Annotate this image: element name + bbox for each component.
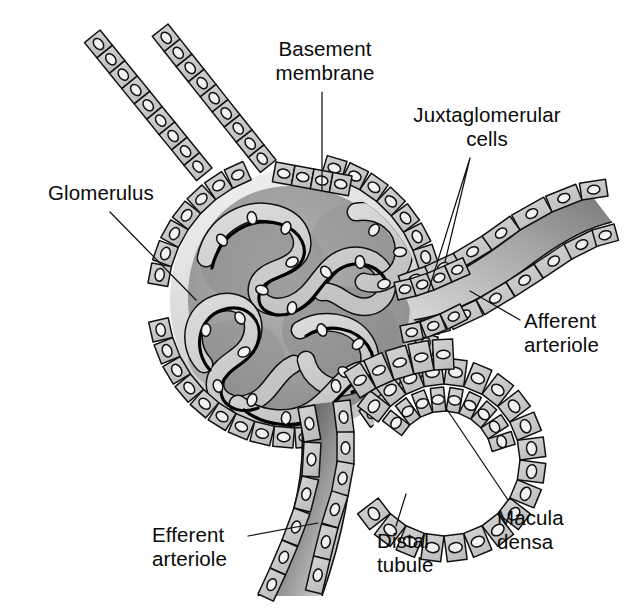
- label-line: Basement: [278, 37, 371, 60]
- label-line: arteriole: [152, 547, 227, 570]
- cell-nucleus: [436, 350, 450, 359]
- label-line: Juxtaglomerular: [413, 103, 560, 126]
- label-line: Efferent: [152, 523, 224, 546]
- label-line: densa: [497, 530, 554, 553]
- renal-corpuscle-figure: BasementmembraneJuxtaglomerularcellsGlom…: [0, 0, 633, 611]
- label-line: Afferent: [524, 309, 596, 332]
- label-line: Macula: [497, 506, 564, 529]
- cell-nucleus: [341, 442, 350, 454]
- label-line: Glomerulus: [48, 181, 154, 204]
- label-line: tubule: [377, 553, 433, 576]
- label-efferent-arteriole: Efferentarteriole: [152, 523, 227, 570]
- label-afferent-arteriole: Afferentarteriole: [524, 309, 599, 356]
- diagram-canvas: BasementmembraneJuxtaglomerularcellsGlom…: [0, 0, 633, 611]
- label-line: arteriole: [524, 333, 599, 356]
- label-line: cells: [466, 127, 508, 150]
- label-line: Distal: [377, 529, 429, 552]
- label-basement-membrane: Basementmembrane: [276, 37, 375, 84]
- label-line: membrane: [276, 61, 375, 84]
- label-glomerulus: Glomerulus: [48, 181, 154, 204]
- cell-nucleus: [307, 453, 317, 466]
- label-distal-tubule: Distaltubule: [377, 529, 433, 576]
- cell-nucleus: [431, 395, 444, 405]
- cell-nucleus: [277, 432, 291, 442]
